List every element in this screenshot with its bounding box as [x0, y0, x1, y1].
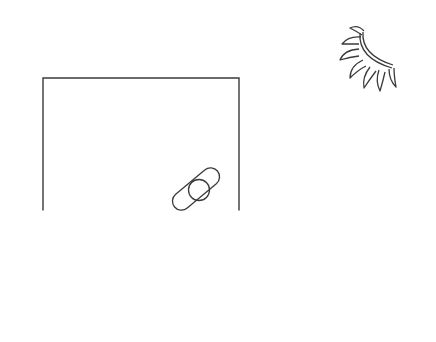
bandage-icon: [169, 164, 223, 214]
drawing-canvas: [0, 0, 436, 342]
sun-icon: [340, 27, 396, 91]
